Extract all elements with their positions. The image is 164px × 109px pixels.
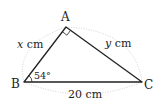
angle-b-label: 54° bbox=[34, 70, 51, 81]
vertex-a-label: A bbox=[60, 10, 70, 24]
vertex-c-label: C bbox=[144, 78, 153, 92]
triangle-diagram: A B C x cm y cm 20 cm 54° bbox=[0, 0, 164, 109]
side-ab-label: x cm bbox=[17, 38, 44, 51]
side-bc-label: 20 cm bbox=[68, 88, 103, 101]
angle-b-arc bbox=[29, 76, 32, 82]
side-ac-label: y cm bbox=[104, 37, 132, 50]
vertex-b-label: B bbox=[11, 77, 20, 91]
